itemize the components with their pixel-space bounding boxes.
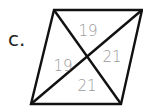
segment-label-bottom: 21 (77, 77, 96, 95)
segment-label-top: 19 (78, 22, 97, 40)
segment-label-left: 19 (53, 57, 72, 75)
segment-label-right: 21 (102, 48, 121, 66)
parallelogram-diagram: 19 21 19 21 (0, 0, 143, 111)
